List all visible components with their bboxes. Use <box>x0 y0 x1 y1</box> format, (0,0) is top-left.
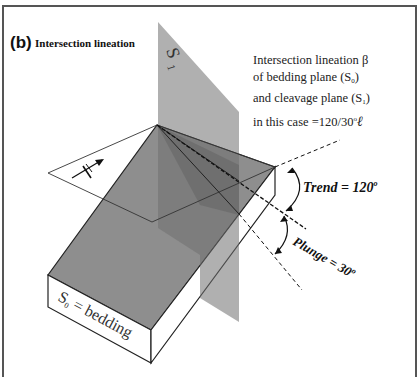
trend-label: Trend = 120o <box>303 179 377 195</box>
plunge-arrowhead-top <box>280 216 288 222</box>
description-line-4: in this case =120/30oℓ <box>253 111 370 131</box>
description-block: Intersection lineation β of bedding plan… <box>253 52 370 131</box>
panel-title: Intersection lineation <box>35 37 135 49</box>
description-line-3: and cleavage plane (S1) <box>253 90 370 111</box>
svg-text:Plunge = 30o: Plunge = 30o <box>291 234 358 282</box>
description-line-1: Intersection lineation β <box>253 52 370 69</box>
north-arrow-icon <box>72 159 104 178</box>
plunge-line <box>239 214 302 290</box>
panel-label: (b) <box>10 33 32 53</box>
lineation-symbol-icon: ℓ <box>357 113 363 129</box>
description-line-2: of bedding plane (S0) <box>253 69 370 90</box>
plunge-label: Plunge = 30o <box>291 234 358 282</box>
trend-arc <box>286 168 300 211</box>
trend-reference-line <box>275 140 340 167</box>
